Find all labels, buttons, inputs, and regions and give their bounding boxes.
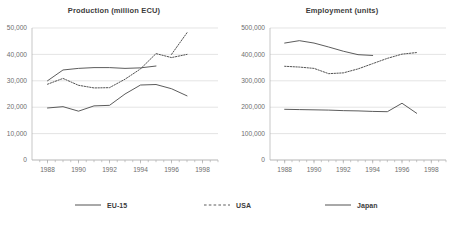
plot-svg-employment: 0100,000200,000300,000400,000500,0001988…: [228, 22, 456, 182]
series-line-usa: [285, 53, 417, 74]
solid-line-icon: [75, 200, 101, 210]
legend-item-japan: Japan: [325, 198, 378, 212]
x-axis-tick-label: 1994: [365, 166, 380, 173]
y-axis-tick-label: 40,000: [7, 51, 28, 58]
chart-panel-employment: Employment (units) 0100,000200,000300,00…: [228, 0, 456, 190]
y-axis-tick-label: 30,000: [7, 77, 28, 84]
plot-svg-production: 010,00020,00030,00040,00050,000198819901…: [0, 22, 228, 182]
solid-line-icon: [325, 200, 351, 210]
legend-label-japan: Japan: [357, 202, 378, 209]
x-axis-tick-label: 1992: [102, 166, 117, 173]
x-axis-tick-label: 1990: [71, 166, 86, 173]
legend-label-usa: USA: [236, 202, 251, 209]
series-line-usa-extension: [172, 33, 188, 55]
dual-line-chart-figure: Production (million ECU) 010,00020,00030…: [0, 0, 456, 227]
y-axis-tick-label: 300,000: [241, 77, 265, 84]
y-axis-tick-label: 0: [261, 156, 265, 163]
chart-panel-production: Production (million ECU) 010,00020,00030…: [0, 0, 228, 190]
plot-area-employment: 0100,000200,000300,000400,000500,0001988…: [228, 22, 456, 182]
series-line-japan: [285, 103, 417, 113]
legend-label-eu-15: EU-15: [107, 202, 127, 209]
x-axis-tick-label: 1988: [277, 166, 292, 173]
dashed-line-icon: [204, 200, 230, 210]
x-axis-tick-label: 1998: [424, 166, 439, 173]
x-axis-tick-label: 1992: [336, 166, 351, 173]
x-axis-tick-label: 1990: [307, 166, 322, 173]
y-axis-tick-label: 50,000: [7, 24, 28, 31]
series-line-eu-15: [285, 41, 373, 56]
x-axis-tick-label: 1996: [395, 166, 410, 173]
y-axis-tick-label: 500,000: [241, 24, 265, 31]
chart-title-production: Production (million ECU): [0, 6, 228, 15]
y-axis-tick-label: 100,000: [241, 130, 265, 137]
y-axis-tick-label: 0: [23, 156, 27, 163]
y-axis-tick-label: 200,000: [241, 103, 265, 110]
y-axis-tick-label: 400,000: [241, 51, 265, 58]
x-axis-tick-label: 1988: [40, 166, 55, 173]
y-axis-tick-label: 20,000: [7, 103, 28, 110]
series-line-usa: [48, 54, 188, 88]
chart-legend: EU-15 USA Japan: [0, 190, 456, 227]
plot-area-production: 010,00020,00030,00040,00050,000198819901…: [0, 22, 228, 182]
legend-item-eu-15: EU-15: [75, 198, 127, 212]
legend-item-usa: USA: [204, 198, 251, 212]
x-axis-tick-label: 1996: [164, 166, 179, 173]
x-axis-tick-label: 1994: [133, 166, 148, 173]
y-axis-tick-label: 10,000: [7, 130, 28, 137]
x-axis-tick-label: 1998: [195, 166, 210, 173]
chart-title-employment: Employment (units): [228, 6, 456, 15]
